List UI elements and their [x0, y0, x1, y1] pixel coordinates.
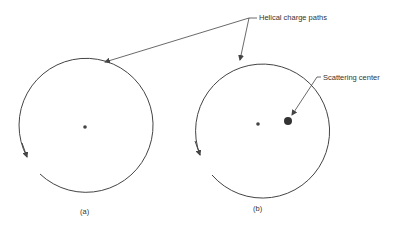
diagram-graphics	[0, 0, 403, 230]
figure-canvas: Helical charge paths Scattering center (…	[0, 0, 403, 230]
panel-b-label: (b)	[253, 204, 262, 213]
panel-a-label: (a)	[80, 207, 89, 216]
scattering-center-label: Scattering center	[323, 73, 380, 82]
helical-leader-lines	[105, 18, 257, 62]
helical-path-b	[195, 64, 330, 198]
scattering-center-dot	[284, 117, 292, 125]
helical-charge-paths-label: Helical charge paths	[259, 13, 327, 22]
center-dot-a	[83, 125, 87, 129]
scattering-leader-line	[292, 77, 321, 115]
helical-path-a	[19, 58, 153, 192]
center-dot-b	[256, 122, 260, 126]
